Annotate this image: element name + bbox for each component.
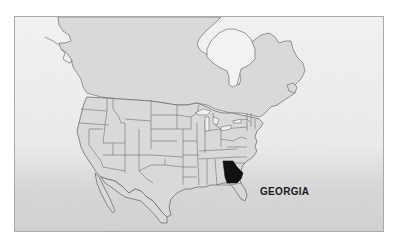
map-frame: GEORGIA [14, 16, 384, 232]
north-america-map [15, 17, 384, 232]
georgia-label: GEORGIA [260, 186, 309, 197]
